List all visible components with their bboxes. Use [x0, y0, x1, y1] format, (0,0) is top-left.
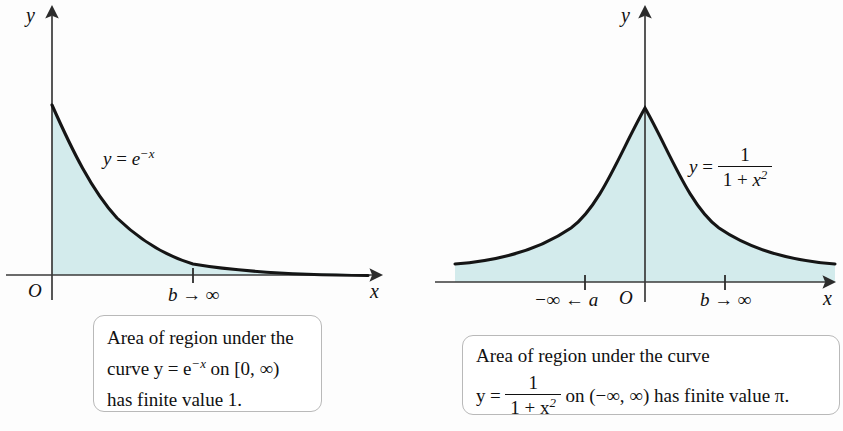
right-curve-label-fraction: 1 1 + x2: [718, 145, 773, 190]
right-caption-y: y: [476, 386, 486, 407]
left-caption-box: Area of region under the curve y = e−x o…: [93, 315, 322, 412]
right-curve-label: y = 1 1 + x2: [689, 146, 772, 191]
right-origin-label: O: [619, 288, 633, 307]
right-curve-label-numerator: 1: [718, 145, 773, 166]
right-tick-b-text: b → ∞: [700, 289, 752, 310]
left-curve-label-exponent: −x: [140, 146, 154, 161]
right-caption-text-1: Area of region under the curve: [476, 341, 710, 372]
right-caption-den-exponent: 2: [550, 395, 556, 410]
right-caption-box: Area of region under the curve y = 1 1 +…: [462, 335, 840, 415]
left-origin-label: O: [28, 281, 42, 300]
left-caption-equals: =: [168, 354, 179, 385]
right-denominator-exponent: 2: [761, 167, 767, 182]
right-caption-den-prefix: 1 +: [510, 397, 540, 418]
right-caption-line-2: y = 1 1 + x2 on (−∞, ∞) has finite value…: [476, 374, 826, 419]
left-caption-exponent: −x: [192, 356, 206, 371]
left-caption-line-3: has finite value 1.: [107, 385, 308, 416]
right-x-axis-label: x: [823, 288, 832, 308]
right-tick-label-b: b → ∞: [700, 290, 752, 309]
figure-root: y x O b → ∞ y = e−x Area of region under…: [0, 0, 843, 431]
left-caption-curve-word: curve: [107, 354, 149, 385]
left-curve-label-lhs: y: [103, 148, 111, 169]
left-caption-line-2: curve y = e−x on [0, ∞): [107, 354, 308, 385]
left-shaded-region: [52, 105, 193, 275]
right-caption-denominator: 1 + x2: [505, 394, 561, 418]
right-caption-equals: =: [490, 386, 501, 407]
left-y-axis-label: y: [26, 5, 35, 25]
left-tick-b-text: b → ∞: [168, 284, 220, 305]
left-caption-interval: on [0, ∞): [211, 354, 280, 385]
right-caption-line-1: Area of region under the curve: [476, 341, 826, 372]
right-curve-label-equals: =: [702, 156, 713, 177]
left-caption-base: e: [183, 358, 191, 379]
right-caption-den-variable: x: [540, 397, 550, 418]
right-curve-label-denominator: 1 + x2: [718, 166, 773, 190]
left-curve-label: y = e−x: [103, 148, 155, 168]
left-caption-text-1: Area of region under the: [107, 323, 294, 354]
right-tick-a-text: −∞ ← a: [534, 289, 598, 310]
right-curve-label-lhs: y: [689, 156, 697, 177]
right-caption-tail: on (−∞, ∞) has finite value π.: [566, 386, 790, 407]
left-curve-label-equals: =: [116, 148, 127, 169]
left-caption-text-3: has finite value 1.: [107, 385, 242, 416]
right-denominator-prefix: 1 +: [723, 169, 753, 190]
left-tick-label-b: b → ∞: [168, 285, 220, 304]
right-caption-fraction: 1 1 + x2: [505, 373, 561, 418]
right-caption-numerator: 1: [505, 373, 561, 394]
left-x-axis-label: x: [370, 281, 379, 301]
right-tick-label-a: −∞ ← a: [534, 290, 598, 309]
right-plot-panel: y x O −∞ ← a b → ∞ y = 1 1 + x2 Area of …: [421, 0, 843, 431]
right-y-axis-label: y: [621, 5, 630, 25]
left-caption-line-1: Area of region under the: [107, 323, 308, 354]
left-caption-y: y: [154, 354, 164, 385]
left-curve-label-base: e: [132, 148, 140, 169]
left-plot-panel: y x O b → ∞ y = e−x Area of region under…: [0, 0, 421, 431]
right-denominator-variable: x: [752, 169, 760, 190]
